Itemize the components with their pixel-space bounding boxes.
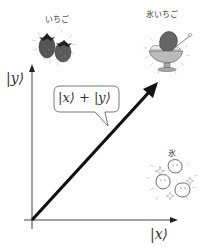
- kakigori-icon: [143, 32, 192, 74]
- ice-label: 氷: [168, 147, 176, 158]
- kakigori-label: 氷いちご: [146, 8, 178, 19]
- strawberry-icon: [32, 30, 76, 66]
- x-axis: [24, 217, 178, 223]
- bubble-text: |x⟩ + |y⟩: [58, 90, 111, 105]
- ice-cubes-icon: [146, 160, 198, 200]
- strawberry-label: いちご: [45, 13, 69, 24]
- ket-vector-diagram: いちご 氷いちご 氷 |y⟩ |x⟩ |x⟩ + |y⟩: [0, 0, 208, 247]
- x-axis-label: |x⟩: [150, 226, 168, 242]
- y-axis-label: |y⟩: [6, 70, 24, 86]
- y-axis: [29, 64, 35, 229]
- diagram-canvas: [0, 0, 208, 247]
